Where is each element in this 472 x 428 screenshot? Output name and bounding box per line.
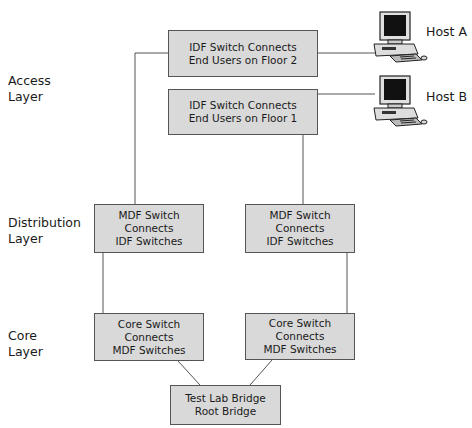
- box-text-line: Core Switch Connects: [95, 318, 203, 344]
- layer-label-line: Layer: [8, 231, 81, 247]
- computer-icon-host-b: [370, 74, 430, 129]
- box-text-line: IDF Switches: [266, 235, 333, 248]
- box-text-line: End Users on Floor 2: [189, 54, 298, 67]
- layer-label-access: Access Layer: [8, 73, 51, 105]
- core-switch-left: Core Switch Connects MDF Switches: [94, 313, 204, 361]
- layer-label-line: Layer: [8, 89, 51, 105]
- layer-label-line: Distribution: [8, 215, 81, 231]
- box-text-line: IDF Switches: [115, 235, 182, 248]
- mdf-switch-right: MDF Switch Connects IDF Switches: [245, 204, 355, 253]
- layer-label-line: Core: [8, 328, 43, 344]
- host-b-label: Host B: [426, 89, 467, 104]
- root-bridge: Test Lab Bridge Root Bridge: [170, 385, 281, 425]
- box-text-line: IDF Switch Connects: [189, 41, 297, 54]
- link-idf2-mdfleft: [135, 53, 168, 204]
- core-switch-right: Core Switch Connects MDF Switches: [245, 313, 355, 360]
- layer-label-core: Core Layer: [8, 328, 43, 360]
- box-text-line: Test Lab Bridge: [185, 392, 266, 405]
- box-text-line: End Users on Floor 1: [189, 112, 298, 125]
- box-text-line: Core Switch Connects: [246, 317, 354, 343]
- idf-switch-floor-1: IDF Switch Connects End Users on Floor 1: [168, 89, 318, 135]
- box-text-line: MDF Switch Connects: [246, 209, 354, 235]
- box-text-line: MDF Switches: [263, 343, 336, 356]
- layer-label-line: Layer: [8, 344, 43, 360]
- box-text-line: IDF Switch Connects: [189, 99, 297, 112]
- idf-switch-floor-2: IDF Switch Connects End Users on Floor 2: [168, 30, 318, 77]
- box-text-line: Root Bridge: [195, 405, 256, 418]
- link-coreright-root: [250, 360, 272, 385]
- host-a-label: Host A: [426, 24, 467, 39]
- computer-icon-host-a: [370, 10, 430, 65]
- link-coreleft-root: [178, 361, 200, 385]
- layer-label-distribution: Distribution Layer: [8, 215, 81, 247]
- box-text-line: MDF Switch Connects: [95, 209, 203, 235]
- mdf-switch-left: MDF Switch Connects IDF Switches: [94, 204, 204, 253]
- layer-label-line: Access: [8, 73, 51, 89]
- box-text-line: MDF Switches: [112, 344, 185, 357]
